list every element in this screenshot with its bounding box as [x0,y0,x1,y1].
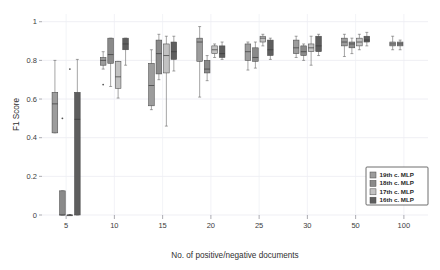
boxplot-box[interactable] [164,36,170,126]
box-body[interactable] [260,36,266,42]
boxplot-box[interactable] [204,56,210,81]
boxplot-box[interactable] [123,38,129,65]
boxplot-box[interactable] [397,40,403,50]
boxplot-box[interactable] [260,34,266,46]
outlier-point [61,117,63,119]
y-axis-title: F1 Score [12,97,21,131]
x-tick-label: 30 [303,221,311,230]
box-body[interactable] [219,46,225,58]
boxplot-box[interactable] [357,34,363,49]
boxplot-box[interactable] [108,38,114,86]
box-body[interactable] [52,92,58,133]
outlier-point [69,68,71,70]
box-body[interactable] [171,42,177,59]
y-tick-label: 0.4 [27,133,37,142]
boxplot-box[interactable] [212,44,218,58]
boxplot-box[interactable] [100,52,106,86]
boxplot-series-4 [75,32,370,215]
x-tick-label: 50 [351,221,359,230]
x-tick-label: 20 [207,221,215,230]
legend[interactable]: 19th c. MLP18th c. MLP17th c. MLP16th c.… [366,167,428,205]
box-body[interactable] [364,36,370,42]
boxplot-series-2 [60,34,403,215]
box-body[interactable] [108,38,114,63]
x-tick-label: 25 [255,221,263,230]
box-body[interactable] [204,60,210,73]
boxplot-box[interactable] [308,36,314,65]
y-tick-label: 1 [33,17,37,26]
box-body[interactable] [316,36,322,51]
boxplot-box[interactable] [390,36,396,50]
box-body[interactable] [100,57,106,65]
box-body[interactable] [245,44,251,60]
box-body[interactable] [149,63,155,106]
boxplot-box[interactable] [293,36,299,57]
boxplot-box[interactable] [342,34,348,56]
box-body[interactable] [301,46,307,56]
boxplot-box[interactable] [316,34,322,55]
legend-item-label: 16th c. MLP [380,196,414,203]
legend-swatch[interactable] [370,172,376,178]
boxplot-box[interactable] [67,68,73,216]
x-tick-label: 100 [398,221,411,230]
y-tick-label: 0.6 [27,95,37,104]
y-tick-label: 0.2 [27,172,37,181]
boxplot-box[interactable] [197,27,203,98]
boxplot-box[interactable] [60,117,66,215]
y-tick-label: 0 [33,211,37,220]
boxplot-box[interactable] [301,44,307,60]
outlier-point [102,84,104,86]
boxplot-box[interactable] [219,42,225,59]
box-body[interactable] [164,44,170,73]
box-body[interactable] [293,40,299,54]
boxplot-box[interactable] [156,34,162,79]
boxplot-box[interactable] [245,42,251,70]
box-body[interactable] [60,191,66,215]
box-body[interactable] [75,92,81,215]
box-body[interactable] [268,40,274,55]
boxplot-box[interactable] [171,36,177,71]
outlier-point [69,214,71,216]
legend-swatch[interactable] [370,180,376,186]
legend-item-label: 18th c. MLP [380,179,414,186]
legend-swatch[interactable] [370,197,376,203]
x-tick-label: 5 [64,221,68,230]
boxplot-box[interactable] [52,60,58,132]
boxplot-box[interactable] [149,50,155,110]
plot-area: 00.20.40.60.815101520253050100No. of pos… [0,0,440,270]
boxplot-box[interactable] [75,59,81,215]
x-tick-label: 10 [110,221,118,230]
boxplot-series-1 [52,27,395,133]
legend-swatch[interactable] [370,189,376,195]
box-body[interactable] [253,48,259,62]
boxplot-box[interactable] [349,38,355,53]
x-tick-label: 15 [158,221,166,230]
boxplot-box[interactable] [115,61,121,98]
box-body[interactable] [349,42,355,48]
boxplot-box[interactable] [253,42,259,68]
boxplot-chart: 00.20.40.60.815101520253050100No. of pos… [0,0,440,270]
legend-item-label: 17th c. MLP [380,188,414,195]
box-body[interactable] [197,38,203,61]
boxplot-box[interactable] [364,32,370,46]
boxplot-box[interactable] [268,38,274,59]
boxplot-series-group [52,27,403,216]
y-tick-label: 0.8 [27,56,37,65]
box-body[interactable] [115,61,121,88]
x-axis-title: No. of positive/negative documents [171,251,298,260]
legend-item-label: 19th c. MLP [380,171,414,178]
box-body[interactable] [156,40,162,74]
